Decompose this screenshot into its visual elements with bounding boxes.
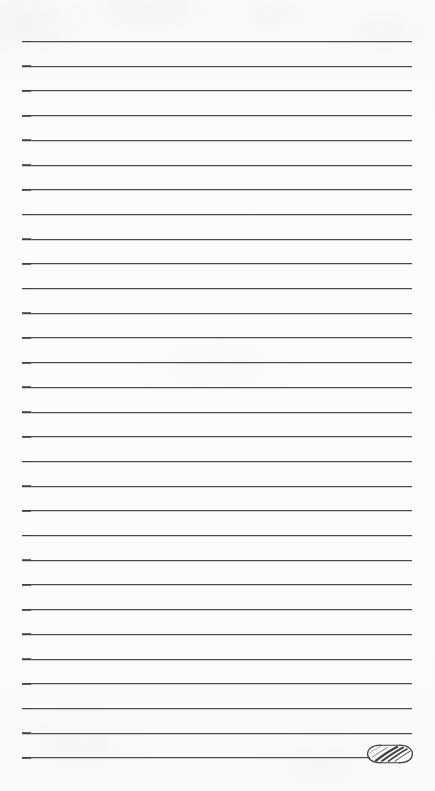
ruled-line — [22, 584, 412, 585]
ruled-line — [22, 510, 412, 511]
ruled-line — [22, 288, 412, 289]
ruled-line — [22, 41, 412, 42]
ruled-line — [22, 461, 412, 462]
ruled-lines-group — [0, 0, 435, 791]
ruled-line — [22, 115, 412, 116]
ruled-line — [22, 659, 412, 660]
ruled-line — [22, 362, 412, 363]
ruled-line — [22, 387, 412, 388]
ruled-line — [22, 337, 412, 338]
ruled-line — [22, 634, 412, 635]
ruled-line — [22, 535, 412, 536]
ruled-line — [22, 189, 412, 190]
ruled-line — [22, 263, 412, 264]
ruled-line — [22, 412, 412, 413]
ruled-line — [22, 683, 412, 684]
ruled-line — [22, 486, 412, 487]
ruled-line — [22, 165, 412, 166]
ruled-line — [22, 609, 412, 610]
ruled-line — [22, 239, 412, 240]
ruled-line-last — [22, 757, 370, 758]
ruled-line — [22, 313, 412, 314]
ruled-line — [22, 214, 412, 215]
ruled-line — [22, 733, 412, 734]
ruled-line — [22, 140, 412, 141]
ruled-line — [22, 436, 412, 437]
ruled-line — [22, 66, 412, 67]
notepaper-page — [0, 0, 435, 791]
ruled-line — [22, 560, 412, 561]
ruled-line — [22, 90, 412, 91]
ruled-line — [22, 708, 412, 709]
